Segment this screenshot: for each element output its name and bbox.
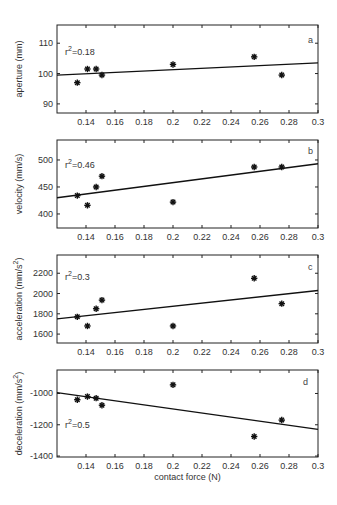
x-tick-label: 0.26 — [251, 117, 269, 127]
x-tick-label: 0.3 — [312, 461, 325, 471]
x-tick-label: 0.16 — [106, 347, 124, 357]
panel-letter: b — [308, 146, 313, 156]
panel-b: 0.140.160.180.20.220.240.260.280.3400450… — [14, 140, 324, 242]
panel-c: 0.140.160.180.20.220.240.260.280.3160018… — [12, 255, 324, 357]
x-tick-label: 0.16 — [106, 117, 124, 127]
y-tick-label: 110 — [39, 38, 53, 48]
x-axis-label: contact force (N) — [154, 472, 221, 482]
x-tick-label: 0.24 — [222, 461, 240, 471]
x-tick-label: 0.24 — [222, 347, 240, 357]
x-tick-label: 0.3 — [312, 117, 325, 127]
y-axis-label: deceleration (mm/s2) — [12, 372, 24, 455]
figure: 0.140.160.180.20.220.240.260.280.3901001… — [0, 0, 337, 505]
regression-line — [57, 290, 318, 318]
x-tick-label: 0.3 — [312, 232, 325, 242]
x-tick-label: 0.22 — [193, 347, 211, 357]
regression-line — [57, 164, 318, 198]
x-tick-label: 0.2 — [167, 347, 180, 357]
y-tick-label: 2000 — [33, 289, 53, 299]
r-squared-label: r2=0.5 — [65, 418, 90, 430]
x-tick-label: 0.2 — [167, 117, 180, 127]
x-tick-label: 0.3 — [312, 347, 325, 357]
x-tick-label: 0.2 — [167, 232, 180, 242]
x-tick-label: 0.14 — [77, 461, 95, 471]
x-tick-label: 0.28 — [280, 461, 298, 471]
y-tick-label: 90 — [43, 99, 53, 109]
x-tick-label: 0.24 — [222, 117, 240, 127]
x-tick-label: 0.18 — [135, 347, 153, 357]
x-tick-label: 0.2 — [167, 461, 180, 471]
x-tick-label: 0.28 — [280, 347, 298, 357]
x-tick-label: 0.22 — [193, 461, 211, 471]
x-tick-label: 0.14 — [77, 117, 95, 127]
panel-a: 0.140.160.180.20.220.240.260.280.3901001… — [14, 25, 324, 127]
y-tick-label: 2200 — [33, 268, 53, 278]
x-tick-label: 0.16 — [106, 461, 124, 471]
y-tick-label: 100 — [38, 69, 53, 79]
y-tick-label: 400 — [38, 209, 53, 219]
y-tick-label: -1200 — [30, 420, 53, 430]
panel-letter: a — [308, 35, 313, 45]
r-squared-label: r2=0.46 — [65, 158, 95, 170]
plot-frame — [57, 370, 318, 457]
data-points — [74, 382, 285, 440]
r-squared-label: r2=0.3 — [65, 270, 90, 282]
y-tick-label: 1600 — [33, 329, 53, 339]
x-tick-label: 0.14 — [77, 232, 95, 242]
x-tick-label: 0.24 — [222, 232, 240, 242]
plot-frame — [57, 255, 318, 343]
y-tick-label: 500 — [38, 155, 53, 165]
x-tick-label: 0.18 — [135, 232, 153, 242]
y-tick-label: -1400 — [30, 451, 53, 461]
x-tick-label: 0.18 — [135, 117, 153, 127]
panel-letter: c — [308, 262, 313, 272]
r-squared-label: r2=0.18 — [65, 45, 95, 57]
x-tick-label: 0.26 — [251, 232, 269, 242]
x-tick-label: 0.26 — [251, 347, 269, 357]
x-tick-label: 0.14 — [77, 347, 95, 357]
y-tick-label: -1000 — [30, 388, 53, 398]
x-tick-label: 0.28 — [280, 232, 298, 242]
panel-d: 0.140.160.180.20.220.240.260.280.3-1400-… — [12, 370, 324, 471]
x-tick-label: 0.16 — [106, 232, 124, 242]
x-tick-label: 0.22 — [193, 232, 211, 242]
y-axis-label: velocity (mm/s) — [14, 154, 24, 215]
x-tick-label: 0.18 — [135, 461, 153, 471]
x-tick-label: 0.28 — [280, 117, 298, 127]
panel-letter: d — [303, 377, 308, 387]
y-axis-label: acceleration (mm/s2) — [12, 258, 24, 341]
y-tick-label: 1800 — [33, 309, 53, 319]
y-tick-label: 450 — [38, 182, 53, 192]
x-tick-label: 0.22 — [193, 117, 211, 127]
data-points — [74, 164, 285, 209]
x-tick-label: 0.26 — [251, 461, 269, 471]
y-axis-label: aperture (mm) — [14, 40, 24, 97]
data-points — [74, 275, 285, 329]
